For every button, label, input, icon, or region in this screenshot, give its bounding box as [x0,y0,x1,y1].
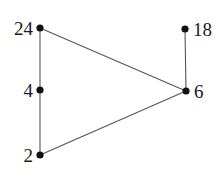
node-label: 18 [193,20,212,39]
graph-node[interactable] [181,25,188,32]
graph-edge [185,29,186,91]
node-label: 2 [24,146,34,165]
node-layer [36,24,189,158]
node-label: 24 [14,19,33,38]
graph-node[interactable] [182,87,189,94]
graph-node[interactable] [36,151,43,158]
graph-figure: 2442186 [0,0,221,177]
edge-layer [40,28,186,155]
graph-edge [40,91,186,155]
graph-node[interactable] [36,24,43,31]
node-label: 4 [24,81,34,100]
graph-edge [40,28,186,91]
node-label: 6 [194,82,204,101]
graph-node[interactable] [36,86,43,93]
